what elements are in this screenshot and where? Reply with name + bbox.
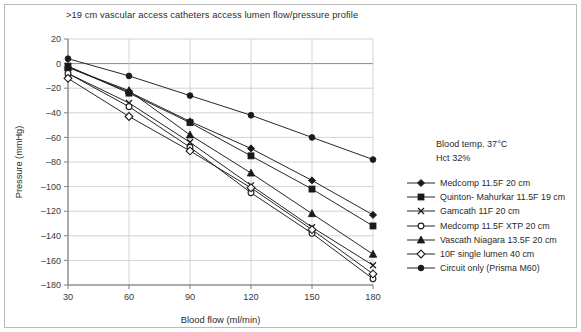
- data-point-filled-circle: [65, 56, 71, 62]
- x-axis-title: Blood flow (ml/min): [181, 314, 261, 325]
- y-axis-tick-label: –100: [41, 182, 61, 192]
- y-axis-tick-label: 0: [56, 59, 61, 69]
- legend-marker-filled-triangle: [406, 233, 436, 247]
- chart-figure: >19 cm vascular access catheters access …: [0, 0, 581, 332]
- series-line: [68, 67, 373, 215]
- data-point-filled-square: [370, 223, 376, 229]
- chart-series: [64, 64, 376, 219]
- chart-annotations: Blood temp. 37°C Hct 32%: [436, 138, 507, 165]
- legend-item-label: Gamcath 11F 20 cm: [436, 206, 520, 216]
- y-axis-tick-label: –180: [41, 280, 61, 290]
- chart-series: [65, 56, 376, 163]
- legend-item-label: Medcomp 11.5F 20 cm: [436, 178, 530, 188]
- y-axis-tick-label: 20: [51, 34, 61, 44]
- data-point-filled-circle: [187, 93, 193, 99]
- y-axis-tick-label: –160: [41, 256, 61, 266]
- legend-item[interactable]: Gamcath 11F 20 cm: [406, 204, 565, 218]
- data-point-filled-triangle: [247, 169, 254, 176]
- legend-item[interactable]: Quinton- Mahurkar 11.5F 19 cm: [406, 190, 565, 204]
- data-point-filled-diamond: [308, 177, 315, 184]
- y-axis-tick-label: –140: [41, 231, 61, 241]
- series-line: [68, 66, 373, 226]
- chart-plot-area: 200–20–40–60–80–100–120–140–160–18030609…: [0, 0, 581, 332]
- data-point-filled-diamond: [369, 211, 376, 218]
- legend-item-label: 10F single lumen 40 cm: [436, 249, 534, 259]
- legend-item[interactable]: Medcomp 11.5F XTP 20 cm: [406, 219, 565, 233]
- x-axis-tick-label: 180: [365, 292, 380, 302]
- legend-marker-open-diamond: [406, 247, 436, 261]
- data-point-filled-diamond: [417, 179, 424, 186]
- data-point-filled-square: [187, 120, 193, 126]
- x-axis-tick-label: 60: [124, 292, 134, 302]
- data-point-filled-square: [418, 194, 424, 200]
- x-axis-tick-label: 30: [63, 292, 73, 302]
- y-axis-tick-label: –20: [46, 83, 61, 93]
- data-point-filled-circle: [418, 265, 424, 271]
- legend-item[interactable]: 10F single lumen 40 cm: [406, 247, 565, 261]
- legend-item[interactable]: Circuit only (Prisma M60): [406, 261, 565, 275]
- data-point-filled-triangle: [417, 236, 424, 243]
- data-point-open-diamond: [125, 113, 133, 121]
- legend-item-label: Medcomp 11.5F XTP 20 cm: [436, 221, 550, 231]
- chart-series: [65, 71, 376, 282]
- chart-series: [64, 63, 376, 257]
- legend-item[interactable]: Medcomp 11.5F 20 cm: [406, 176, 565, 190]
- y-axis-tick-label: –120: [41, 206, 61, 216]
- y-axis-tick-label: –60: [46, 133, 61, 143]
- legend-marker-filled-circle: [406, 261, 436, 275]
- legend-marker-filled-square: [406, 190, 436, 204]
- data-point-filled-circle: [370, 157, 376, 163]
- legend-item-label: Quinton- Mahurkar 11.5F 19 cm: [436, 192, 565, 202]
- data-point-open-circle: [126, 104, 132, 110]
- data-point-filled-triangle: [369, 250, 376, 257]
- data-point-filled-square: [248, 153, 254, 159]
- series-line: [68, 59, 373, 160]
- annotation-hct: Hct 32%: [436, 152, 507, 166]
- legend-marker-cross-x: [406, 204, 436, 218]
- y-axis-tick-label: –40: [46, 108, 61, 118]
- data-point-filled-circle: [248, 112, 254, 118]
- data-point-filled-triangle: [186, 131, 193, 138]
- chart-legend: Medcomp 11.5F 20 cmQuinton- Mahurkar 11.…: [406, 176, 565, 275]
- x-axis-tick-label: 120: [243, 292, 258, 302]
- data-point-open-diamond: [417, 250, 425, 258]
- legend-item-label: Circuit only (Prisma M60): [436, 263, 540, 273]
- legend-marker-filled-diamond: [406, 176, 436, 190]
- data-point-filled-square: [309, 186, 315, 192]
- annotation-blood-temp: Blood temp. 37°C: [436, 138, 507, 152]
- legend-item[interactable]: Vascath Niagara 13.5F 20 cm: [406, 233, 565, 247]
- data-point-filled-triangle: [308, 210, 315, 217]
- legend-item-label: Vascath Niagara 13.5F 20 cm: [436, 235, 557, 245]
- x-axis-tick-label: 150: [304, 292, 319, 302]
- series-line: [68, 73, 373, 278]
- data-point-filled-circle: [309, 135, 315, 141]
- data-point-open-circle: [418, 223, 424, 229]
- y-axis-title: Pressure (mmHg): [14, 126, 24, 199]
- x-axis-tick-label: 90: [185, 292, 195, 302]
- legend-marker-open-circle: [406, 219, 436, 233]
- y-axis-tick-label: –80: [46, 157, 61, 167]
- data-point-filled-diamond: [247, 145, 254, 152]
- data-point-filled-circle: [126, 73, 132, 79]
